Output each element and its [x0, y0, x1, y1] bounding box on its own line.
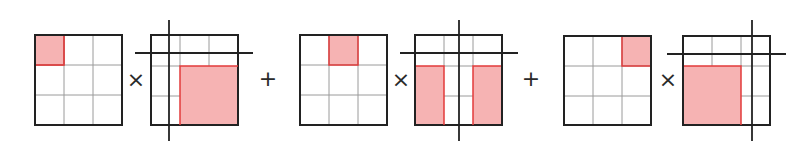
shaded-region [180, 66, 238, 125]
shifted-grid-3 [667, 20, 786, 141]
multiply-operator: × [124, 69, 148, 91]
kernel-grid-2 [300, 35, 387, 125]
plus-operator: + [256, 68, 280, 90]
shaded-region-left [415, 66, 444, 125]
multiply-operator: × [389, 69, 413, 91]
shaded-region-right [473, 66, 502, 125]
highlight-cell-top-left [35, 35, 64, 65]
highlight-cell-top-right [622, 36, 651, 66]
kernel-grid-3 [564, 36, 651, 125]
shaded-region [683, 66, 741, 125]
kernel-grid-1 [35, 35, 122, 125]
plus-operator: + [519, 68, 543, 90]
multiply-operator: × [656, 69, 680, 91]
shifted-grid-1 [135, 20, 253, 141]
highlight-cell-top-center [329, 35, 358, 65]
shifted-grid-2 [400, 20, 518, 141]
